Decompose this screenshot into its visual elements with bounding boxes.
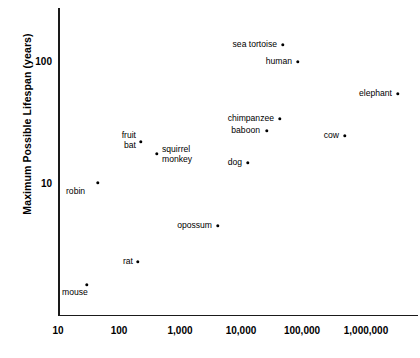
x-tick-100000: 100,000 [284,325,320,336]
data-point-chimpanzee [278,117,281,120]
x-tick-10000: 10,000 [226,325,257,336]
x-tick-1000: 1,000 [167,325,192,336]
point-label-chimpanzee: chimpanzee [228,114,274,124]
data-point-squirrel-monkey [155,152,158,155]
data-point-mouse [85,283,88,286]
data-point-opossum [216,224,219,227]
data-point-cow [343,134,346,137]
point-label-baboon: baboon [231,126,260,136]
y-axis-line [58,8,60,316]
y-axis-ticks: 100 10 [0,0,52,358]
point-label-mouse: mouse [62,288,88,298]
point-label-elephant: elephant [359,89,392,99]
data-point-dog [246,161,249,164]
point-label-fruit-bat-line2: bat [124,141,136,151]
data-point-fruit-bat [139,140,142,143]
y-tick-100: 100 [35,56,52,67]
data-point-robin [96,181,99,184]
point-label-dog: dog [228,158,242,168]
data-point-rat [136,260,139,263]
point-label-opossum: opossum [177,221,212,231]
x-tick-10: 10 [52,325,63,336]
point-label-human: human [266,57,292,67]
data-point-human [296,60,299,63]
point-label-rat: rat [123,257,133,267]
x-tick-1000000: 1,000,000 [344,325,389,336]
data-point-sea-tortoise [281,43,284,46]
data-point-baboon [265,129,268,132]
x-tick-100: 100 [111,325,128,336]
data-point-elephant [396,92,399,95]
point-label-cow: cow [324,131,339,141]
point-label-squirrel-monkey-line2: monkey [162,155,192,165]
point-label-robin: robin [66,187,85,197]
point-label-sea-tortoise: sea tortoise [233,40,277,50]
x-axis-line [58,315,418,317]
scatter-plot-figure: Maximum Possible Lifespan (years) 100 10… [0,0,420,358]
y-tick-10: 10 [41,178,52,189]
